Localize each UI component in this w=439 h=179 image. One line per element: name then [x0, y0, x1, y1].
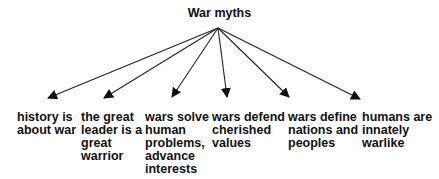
arrow-to-humans [218, 28, 360, 99]
node-wars-defend: wars defend cherished values [212, 111, 285, 150]
arrow-to-wars-define [218, 28, 289, 97]
arrow-edges [0, 0, 439, 179]
arrow-to-great-leader [104, 28, 218, 98]
node-wars-define: wars define nations and peoples [288, 111, 358, 150]
node-humans: humans are innately warlike [362, 111, 432, 150]
arrow-to-wars-solve [172, 28, 218, 97]
node-great-leader: the great leader is a great warrior [81, 111, 142, 163]
node-history: history is about war [17, 111, 76, 137]
node-wars-solve: wars solve human problems, advance inter… [145, 111, 209, 176]
arrow-to-wars-defend [218, 28, 227, 97]
arrow-to-history [48, 28, 218, 98]
